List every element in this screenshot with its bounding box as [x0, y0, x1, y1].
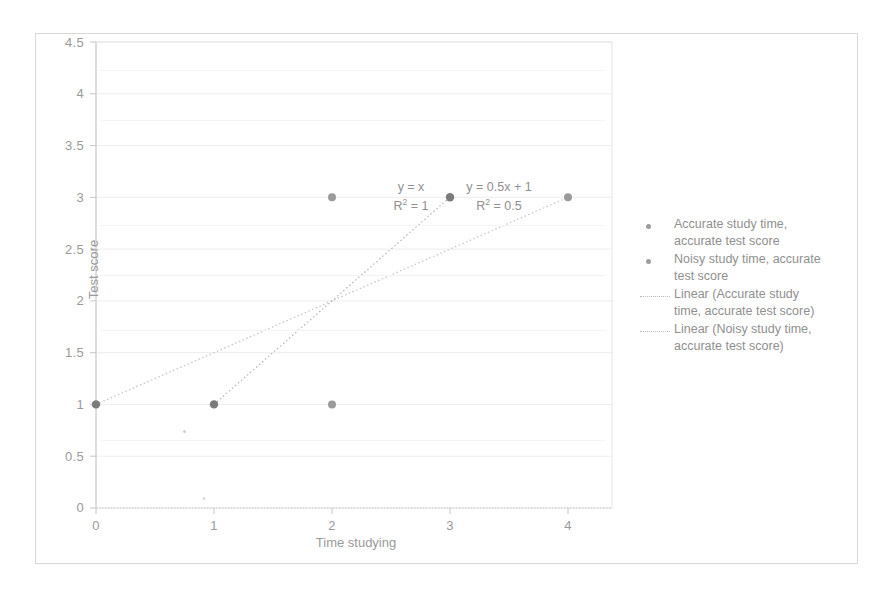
y-tick-label: 2	[44, 293, 84, 308]
equation-text: y = 0.5x + 1	[466, 180, 531, 194]
x-tick-label: 0	[76, 518, 116, 533]
legend-marker-dot-icon	[640, 218, 674, 235]
scan-noise	[100, 275, 605, 276]
data-point	[210, 400, 218, 408]
data-point	[328, 193, 336, 201]
y-tick-label: 1.5	[44, 345, 84, 360]
scan-noise	[100, 440, 605, 441]
y-tick-label: 2.5	[44, 242, 84, 257]
scan-noise	[100, 70, 605, 71]
legend-item-linear-noisy[interactable]: Linear (Noisy study time, accurate test …	[640, 321, 845, 355]
x-axis-ticks	[96, 508, 568, 514]
y-tick-label: 4	[44, 86, 84, 101]
legend-item-linear-accurate[interactable]: Linear (Accurate study time, accurate te…	[640, 286, 845, 320]
legend-label: Linear (Noisy study time, accurate test …	[674, 321, 845, 355]
trendline-annotation-accurate: y = x R2 = 1	[366, 178, 456, 215]
data-point	[564, 193, 572, 201]
y-tick-label: 0	[44, 500, 84, 515]
trendline-annotation-noisy: y = 0.5x + 1 R2 = 0.5	[444, 178, 554, 215]
data-point	[92, 400, 100, 408]
x-axis-title: Time studying	[236, 535, 476, 550]
equation-text: y = x	[398, 180, 425, 194]
y-tick-label: 4.5	[44, 35, 84, 50]
legend-label: Accurate study time, accurate test score	[674, 216, 845, 250]
chart-legend: Accurate study time, accurate test score…	[640, 216, 845, 356]
x-tick-label: 2	[312, 518, 352, 533]
legend-marker-dot-icon	[640, 253, 674, 270]
x-tick-label: 1	[194, 518, 234, 533]
legend-marker-dotted-line-icon	[640, 323, 674, 340]
y-tick-label: 1	[44, 397, 84, 412]
legend-label: Linear (Accurate study time, accurate te…	[674, 286, 845, 320]
legend-item-accurate-study[interactable]: Accurate study time, accurate test score	[640, 216, 845, 250]
x-tick-label: 3	[430, 518, 470, 533]
x-tick-label: 4	[548, 518, 588, 533]
scan-noise	[100, 225, 605, 226]
legend-item-noisy-study[interactable]: Noisy study time, accurate test score	[640, 251, 845, 285]
scan-speck	[183, 430, 186, 433]
scan-noise	[100, 120, 605, 121]
y-tick-label: 3	[44, 190, 84, 205]
y-tick-label: 0.5	[44, 449, 84, 464]
r-squared-text: R2 = 0.5	[476, 199, 521, 213]
scan-noise	[100, 330, 605, 331]
scan-speck	[203, 497, 205, 500]
legend-marker-dotted-line-icon	[640, 288, 674, 305]
y-tick-label: 3.5	[44, 138, 84, 153]
data-point	[328, 400, 336, 408]
r-squared-text: R2 = 1	[394, 199, 429, 213]
legend-label: Noisy study time, accurate test score	[674, 251, 845, 285]
y-axis-title: Test score	[86, 215, 101, 325]
